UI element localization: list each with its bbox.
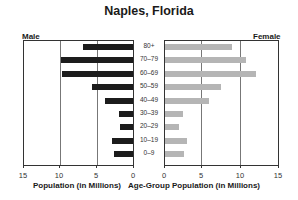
age-group-label: 10–19 <box>134 136 164 144</box>
age-group-label: 0–9 <box>134 149 164 157</box>
tick-mark <box>240 165 241 168</box>
x-axis-label-male: Population (in Millions) <box>33 181 121 190</box>
male-bar <box>92 84 134 90</box>
age-group-label: 20–29 <box>134 122 164 130</box>
tick-mark <box>278 165 279 168</box>
female-bar <box>164 151 184 157</box>
tick-label: 0 <box>162 171 166 180</box>
tick-mark <box>164 165 165 168</box>
male-bar <box>114 151 134 157</box>
male-bar <box>61 57 134 63</box>
male-bar <box>119 111 134 117</box>
age-group-label: 60–69 <box>134 69 164 77</box>
age-group-label: 40–49 <box>134 96 164 104</box>
x-axis-label-female: Population (in Millions) <box>172 181 260 190</box>
female-bar <box>164 138 187 144</box>
female-bar <box>164 57 246 63</box>
female-axis-line <box>164 40 165 166</box>
tick-label: 5 <box>94 171 98 180</box>
tick-mark <box>133 165 134 168</box>
tick-mark <box>59 165 60 168</box>
female-bar <box>164 84 221 90</box>
tick-mark <box>201 165 202 168</box>
tick-label: 10 <box>55 171 63 180</box>
age-group-label: 70–79 <box>134 55 164 63</box>
x-axis-label-age: Age-Group <box>128 181 170 190</box>
male-plot-area <box>23 40 134 166</box>
female-bar <box>164 124 179 130</box>
tick-label: 15 <box>19 171 27 180</box>
tick-label: 0 <box>131 171 135 180</box>
male-bar <box>83 44 134 50</box>
male-bar <box>120 124 134 130</box>
age-group-label: 80+ <box>134 42 164 50</box>
female-plot-area <box>164 40 279 166</box>
male-bar <box>112 138 134 144</box>
chart-title: Naples, Florida <box>0 4 298 18</box>
age-group-label: 30–39 <box>134 109 164 117</box>
tick-mark <box>23 165 24 168</box>
tick-label: 5 <box>199 171 203 180</box>
tick-mark <box>96 165 97 168</box>
female-bar <box>164 71 256 77</box>
tick-label: 10 <box>236 171 244 180</box>
male-bar <box>62 71 134 77</box>
tick-label: 15 <box>274 171 282 180</box>
female-bar <box>164 111 183 117</box>
female-bar <box>164 44 232 50</box>
age-group-label: 50–59 <box>134 82 164 90</box>
female-bar <box>164 98 209 104</box>
male-bar <box>105 98 134 104</box>
